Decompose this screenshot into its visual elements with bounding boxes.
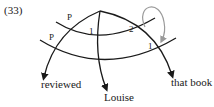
label-upper-middle: 1 — [89, 27, 94, 36]
label-lower-left-p: P — [49, 33, 54, 42]
arc-to-louise — [98, 11, 106, 88]
arc-to-that-book — [100, 11, 172, 75]
leaf-that-book: that book — [171, 77, 212, 88]
label-lower-right: 1 — [148, 42, 153, 51]
label-upper-right: 2 — [129, 25, 134, 34]
label-upper-left-p: P — [67, 13, 72, 22]
leaf-reviewed: reviewed — [41, 79, 81, 90]
leaf-louise: Louise — [104, 92, 134, 103]
